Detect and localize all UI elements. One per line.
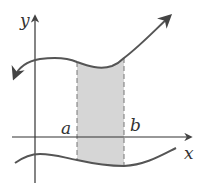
y-axis-label: y — [20, 12, 30, 29]
area-between-curves-figure — [0, 0, 205, 193]
diagram-canvas: y x a b — [0, 0, 205, 193]
x-axis-label: x — [184, 145, 194, 162]
b-label: b — [130, 117, 141, 134]
shaded-region — [77, 58, 124, 166]
a-label: a — [61, 120, 71, 137]
